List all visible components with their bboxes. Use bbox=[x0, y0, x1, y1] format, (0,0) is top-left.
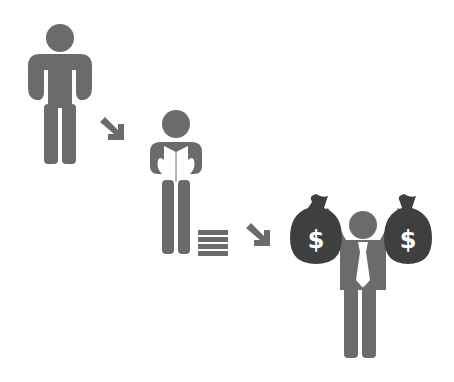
arrow-down-right-icon bbox=[246, 223, 270, 246]
svg-text:$: $ bbox=[308, 226, 325, 254]
illustration: From broke to rich through learning bbox=[0, 0, 454, 382]
money-bag-icon: $ bbox=[384, 194, 432, 264]
poor-man-icon bbox=[28, 24, 92, 164]
reading-man-icon bbox=[150, 110, 202, 254]
svg-text:$: $ bbox=[400, 226, 417, 254]
book-stack-icon bbox=[198, 230, 228, 256]
arrow-down-right-icon bbox=[100, 117, 124, 140]
money-bag-icon: $ bbox=[290, 194, 342, 264]
